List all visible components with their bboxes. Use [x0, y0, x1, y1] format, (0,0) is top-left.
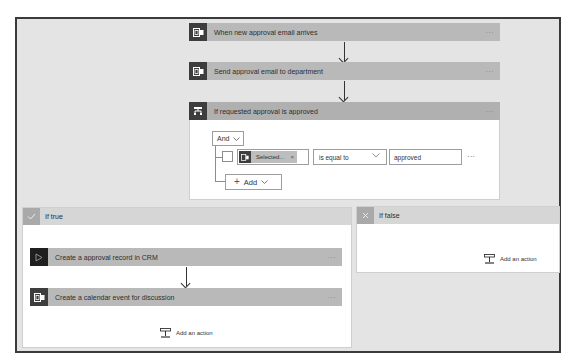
condition-card[interactable]: If requested approval is approved ···	[189, 102, 500, 120]
outlook-icon	[189, 23, 207, 41]
connector-arrow	[186, 267, 187, 286]
operator-dropdown[interactable]: is equal to	[313, 149, 387, 165]
right-operand-value: approved	[394, 154, 421, 161]
dynamic-content-token[interactable]: Selected... ×	[239, 151, 297, 163]
connector-arrow	[344, 81, 345, 100]
token-remove-button[interactable]: ×	[290, 154, 297, 160]
connector-arrow	[344, 42, 345, 61]
operator-label: is equal to	[319, 154, 349, 161]
more-options-button[interactable]: ···	[486, 68, 501, 75]
group-operator-label: And	[217, 135, 229, 142]
tree-line	[215, 181, 225, 182]
if-true-branch: If true	[22, 207, 352, 348]
more-options-button[interactable]: ···	[328, 254, 343, 261]
check-icon	[23, 208, 40, 225]
add-label: Add	[244, 178, 257, 187]
more-options-button[interactable]: ···	[328, 294, 343, 301]
row-select-checkbox[interactable]	[222, 151, 233, 162]
add-action-icon	[160, 328, 171, 338]
step-title: Send approval email to department	[207, 68, 486, 75]
condition-title: If requested approval is approved	[207, 108, 486, 115]
add-condition-button[interactable]: + Add	[225, 174, 282, 190]
action-card-crm[interactable]: Create a approval record in CRM ···	[30, 248, 342, 266]
outlook-icon	[30, 288, 48, 306]
add-action-icon	[484, 254, 495, 264]
more-options-button[interactable]: ···	[486, 108, 501, 115]
if-true-add-action-button[interactable]: Add an action	[160, 328, 213, 338]
add-action-label: Add an action	[176, 330, 213, 336]
left-operand-field[interactable]: Selected... ×	[237, 149, 309, 165]
if-true-title: If true	[40, 213, 63, 220]
chevron-down-icon	[261, 180, 268, 184]
action-card-calendar[interactable]: Create a calendar event for discussion ·…	[30, 288, 342, 306]
right-operand-input[interactable]: approved	[389, 149, 462, 165]
chevron-down-icon	[372, 153, 380, 158]
tree-line	[215, 157, 222, 158]
if-true-header[interactable]: If true	[23, 208, 351, 225]
step-title: When new approval email arrives	[207, 29, 486, 36]
condition-icon	[189, 102, 207, 120]
if-false-header[interactable]: If false	[357, 207, 559, 224]
tree-line	[215, 146, 216, 181]
row-more-options-button[interactable]: ···	[467, 152, 475, 161]
if-false-add-action-button[interactable]: Add an action	[484, 254, 537, 264]
step-card-email-arrives[interactable]: When new approval email arrives ···	[189, 23, 500, 41]
more-options-button[interactable]: ···	[486, 29, 501, 36]
action-title: Create a approval record in CRM	[48, 254, 328, 261]
outlook-icon	[239, 151, 251, 163]
step-card-send-email[interactable]: Send approval email to department ···	[189, 62, 500, 80]
action-title: Create a calendar event for discussion	[48, 294, 328, 301]
x-icon	[357, 207, 374, 224]
token-label: Selected...	[251, 154, 290, 160]
group-operator-dropdown[interactable]: And	[212, 131, 244, 146]
chevron-down-icon	[233, 137, 240, 141]
crm-icon	[30, 248, 48, 266]
plus-icon: +	[234, 177, 240, 187]
if-false-title: If false	[374, 212, 400, 219]
outlook-icon	[189, 62, 207, 80]
add-action-label: Add an action	[500, 256, 537, 262]
